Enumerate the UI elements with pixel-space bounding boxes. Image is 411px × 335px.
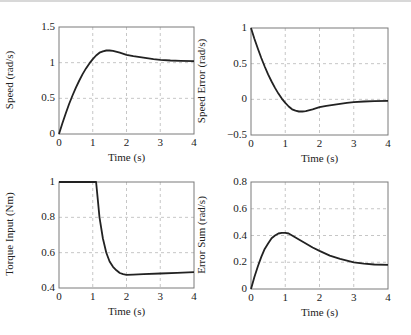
y-tick-label: 0.2	[207, 255, 247, 267]
x-tick-label: 2	[310, 291, 330, 303]
x-tick-label: 3	[344, 291, 364, 303]
error-sum-chart: 0123400.20.40.60.8Time (s)Error Sum (rad…	[0, 0, 411, 335]
y-tick-label: 0.4	[207, 229, 247, 241]
x-tick-label: 4	[378, 291, 398, 303]
y-tick-label: 0	[207, 282, 247, 294]
x-tick-label: 1	[275, 291, 295, 303]
y-axis-label: Error Sum (rad/s)	[195, 170, 207, 300]
y-tick-label: 0.8	[207, 175, 247, 187]
y-tick-label: 0.6	[207, 202, 247, 214]
x-axis-label: Time (s)	[251, 306, 388, 318]
